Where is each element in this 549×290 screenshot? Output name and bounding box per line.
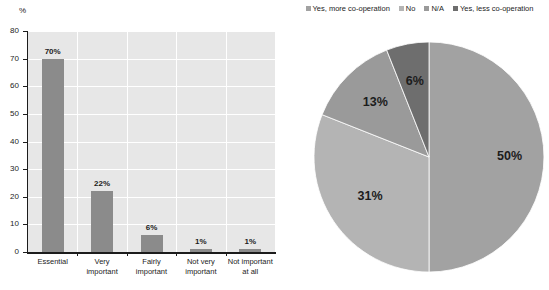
- bar-category-label-line: Essential: [25, 257, 80, 267]
- bar-value-label: 6%: [132, 223, 172, 232]
- pie-legend-item[interactable]: N/A: [424, 4, 444, 13]
- pie-slice-value-label: 50%: [494, 150, 526, 163]
- bar-y-tick-mark: [23, 252, 28, 253]
- legend-swatch-icon: [424, 6, 429, 11]
- bar-y-tick-mark: [23, 86, 28, 87]
- bar-category-label-line: Very: [74, 257, 129, 267]
- bar-x-tick-mark: [127, 252, 128, 256]
- bar-value-label: 22%: [82, 179, 122, 188]
- bar-y-tick-label: 30: [3, 165, 19, 173]
- bar-category-label-line: Not very: [173, 257, 228, 267]
- legend-swatch-icon: [453, 6, 458, 11]
- pie-legend-label: Yes, less co-operation: [460, 4, 534, 13]
- legend-swatch-icon: [399, 6, 404, 11]
- bar-gridline-vertical: [77, 31, 78, 252]
- bar-x-tick-mark: [226, 252, 227, 256]
- bar-y-tick-mark: [23, 114, 28, 115]
- bar-category-label: Veryimportant: [74, 257, 129, 276]
- bar-value-label: 1%: [181, 237, 221, 246]
- bar-y-tick-label: 0: [3, 248, 19, 256]
- pie-legend-item[interactable]: Yes, less co-operation: [453, 4, 534, 13]
- bar-value-label: 70%: [33, 47, 73, 56]
- bar-category-label: Not veryimportant: [173, 257, 228, 276]
- bar-gridline-horizontal: [28, 197, 275, 198]
- bar-rect: [141, 235, 163, 252]
- bar-category-label: Not importantat all: [223, 257, 278, 276]
- pie-slice-value-label: 31%: [354, 190, 386, 203]
- bar-chart: % 80706050403020100 70%22%6%1%1% Essenti…: [0, 0, 290, 290]
- pie-slice-value-label: 13%: [359, 96, 391, 109]
- pie-chart: Yes, more co-operationNoN/AYes, less co-…: [290, 0, 549, 290]
- bar-category-label: Fairlyimportant: [124, 257, 179, 276]
- bar-y-tick-mark: [23, 169, 28, 170]
- bar-gridline-horizontal: [28, 114, 275, 115]
- bar-y-tick-label: 20: [3, 193, 19, 201]
- bar-y-tick-label: 60: [3, 82, 19, 90]
- bar-rect: [42, 59, 64, 252]
- bar-y-tick-mark: [23, 142, 28, 143]
- bar-y-tick-mark: [23, 197, 28, 198]
- legend-swatch-icon: [306, 6, 311, 11]
- pie-legend: Yes, more co-operationNoN/AYes, less co-…: [292, 2, 547, 15]
- bar-x-tick-mark: [77, 252, 78, 256]
- bar-category-label-line: important: [74, 267, 129, 277]
- bar-gridline-vertical: [226, 31, 227, 252]
- bar-gridline-vertical: [127, 31, 128, 252]
- bar-x-axis-line: [27, 252, 276, 254]
- bar-value-label: 1%: [230, 237, 270, 246]
- pie-legend-item[interactable]: Yes, more co-operation: [306, 4, 390, 13]
- bar-y-tick-mark: [23, 224, 28, 225]
- bar-plot-area: [28, 31, 275, 252]
- bar-y-tick-mark: [23, 31, 28, 32]
- bar-rect: [91, 191, 113, 252]
- bar-category-label-line: Not important: [223, 257, 278, 267]
- bar-category-label-line: important: [173, 267, 228, 277]
- bar-y-tick-label: 40: [3, 138, 19, 146]
- bar-y-axis-unit-label: %: [19, 6, 26, 15]
- bar-gridline-horizontal: [28, 86, 275, 87]
- bar-y-tick-mark: [23, 59, 28, 60]
- bar-category-label-line: important: [124, 267, 179, 277]
- pie-slice-value-label: 6%: [399, 75, 431, 88]
- bar-gridline-horizontal: [28, 142, 275, 143]
- bar-y-tick-label: 80: [3, 27, 19, 35]
- bar-y-tick-label: 50: [3, 110, 19, 118]
- pie-slice[interactable]: [429, 42, 544, 272]
- pie-legend-label: Yes, more co-operation: [313, 4, 390, 13]
- bar-gridline-vertical: [176, 31, 177, 252]
- bar-y-tick-label: 70: [3, 55, 19, 63]
- pie-legend-item[interactable]: No: [399, 4, 416, 13]
- bar-x-tick-mark: [176, 252, 177, 256]
- bar-category-label: Essential: [25, 257, 80, 267]
- bar-gridline-horizontal: [28, 169, 275, 170]
- pie-legend-label: No: [406, 4, 416, 13]
- bar-y-tick-label: 10: [3, 220, 19, 228]
- pie-legend-label: N/A: [431, 4, 444, 13]
- bar-category-label-line: at all: [223, 267, 278, 277]
- bar-gridline-horizontal: [28, 59, 275, 60]
- bar-gridline-horizontal: [28, 31, 275, 32]
- bar-category-label-line: Fairly: [124, 257, 179, 267]
